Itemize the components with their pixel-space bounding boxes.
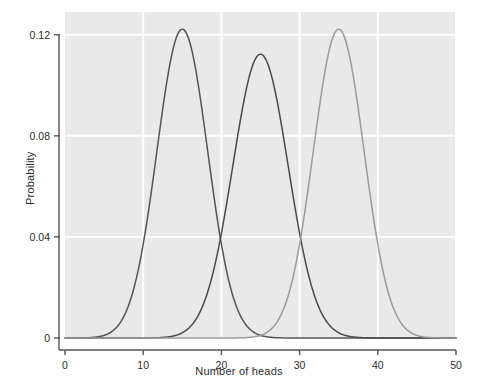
x-axis-title: Number of heads [0, 365, 478, 377]
probability-distribution-chart [0, 0, 478, 385]
plot-background [65, 12, 456, 338]
y-tick-label: 0 [44, 332, 50, 344]
y-axis-title: Probability [24, 151, 36, 205]
y-tick-label: 0.04 [30, 231, 50, 243]
y-tick-label: 0.08 [30, 130, 50, 142]
chart-figure: 00.040.080.12 01020304050 Number of head… [0, 0, 478, 385]
y-tick-label: 0.12 [30, 29, 50, 41]
